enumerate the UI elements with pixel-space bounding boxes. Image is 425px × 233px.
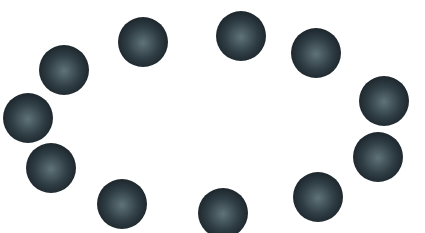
sphere (3, 93, 53, 143)
sphere (359, 76, 409, 126)
sphere (39, 45, 89, 95)
sphere (216, 11, 266, 61)
sphere-ring-canvas (0, 0, 425, 233)
sphere (198, 188, 248, 233)
sphere (26, 143, 76, 193)
sphere (293, 172, 343, 222)
sphere (118, 17, 168, 67)
sphere (97, 179, 147, 229)
sphere (353, 132, 403, 182)
sphere (291, 28, 341, 78)
